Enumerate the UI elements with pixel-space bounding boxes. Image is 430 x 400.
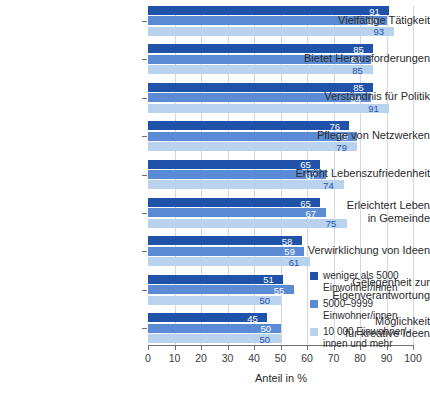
bar-value-label: 74	[323, 181, 334, 190]
legend-swatch	[310, 328, 318, 336]
x-axis-tick	[254, 345, 255, 350]
bar-value-label: 50	[260, 335, 271, 344]
legend-item[interactable]: 10 000 Einwohner/-innen und mehr	[310, 326, 410, 350]
legend-label-line: 5000–9999	[323, 298, 410, 310]
bar	[148, 142, 357, 151]
bar	[148, 247, 304, 256]
x-axis-tick	[228, 345, 229, 350]
x-axis-tick-label: 50	[275, 352, 287, 364]
category-label: Vielfältige Tätigkeit	[292, 14, 430, 27]
category-tick	[142, 21, 147, 22]
bar-value-label: 55	[274, 286, 285, 295]
bar-value-label: 85	[352, 66, 363, 75]
bar-value-label: 58	[282, 237, 293, 246]
bar	[148, 236, 302, 245]
bar-value-label: 51	[263, 275, 274, 284]
x-axis-tick-label: 10	[169, 352, 181, 364]
legend-label-line: innen und mehr	[323, 338, 410, 350]
bar-value-label: 50	[260, 296, 271, 305]
category-label-line: Verständnis für Politik	[292, 90, 430, 103]
bar	[148, 104, 389, 113]
category-label-line: in Gemeinde	[292, 212, 430, 225]
category-label: Verwirklichung von Ideen	[292, 244, 430, 257]
category-label: Verständnis für Politik	[292, 90, 430, 103]
bar-value-label: 79	[336, 143, 347, 152]
category-tick	[142, 290, 147, 291]
legend-swatch	[310, 300, 318, 308]
category-tick	[142, 328, 147, 329]
x-axis-tick	[307, 345, 308, 350]
x-axis-tick-label: 40	[248, 352, 260, 364]
category-label-line: Vielfältige Tätigkeit	[292, 14, 430, 27]
x-axis-tick-label: 0	[145, 352, 151, 364]
bar-value-label: 45	[247, 314, 258, 323]
x-axis-tick	[175, 345, 176, 350]
category-label-line: Erhöht Lebenszufriedenheit	[292, 167, 430, 180]
x-axis-tick	[148, 345, 149, 350]
legend-label-line: weniger als 5000	[323, 270, 410, 282]
category-tick	[142, 59, 147, 60]
category-tick	[142, 251, 147, 252]
bar-value-label: 61	[289, 258, 300, 267]
x-axis-tick	[413, 345, 414, 350]
x-axis-tick	[281, 345, 282, 350]
bar	[148, 285, 294, 294]
legend-label-line: Einwohner/innen	[323, 282, 410, 294]
bar	[148, 180, 344, 189]
legend-item[interactable]: weniger als 5000Einwohner/innen	[310, 270, 410, 294]
category-tick	[142, 136, 147, 137]
bar	[148, 27, 394, 36]
category-label: Bietet Herausforderungen	[292, 52, 430, 65]
category-label: Pflege von Netzwerken	[292, 129, 430, 142]
bar-value-label: 91	[368, 104, 379, 113]
x-axis-title: Anteil in %	[148, 372, 414, 384]
category-tick	[142, 98, 147, 99]
category-label-line: Erleichtert Leben	[292, 199, 430, 212]
bar-value-label: 50	[261, 324, 272, 333]
bar-chart: 0102030405060708090100 Anteil in % 91909…	[0, 0, 430, 400]
category-tick	[142, 175, 147, 176]
x-axis-tick	[201, 345, 202, 350]
bar	[148, 257, 310, 266]
legend-swatch	[310, 272, 318, 280]
bar-value-label: 93	[373, 27, 384, 36]
legend: weniger als 5000Einwohner/innen5000–9999…	[310, 270, 410, 354]
legend-label-line: Einwohner/innen	[323, 310, 410, 322]
x-axis-tick-label: 20	[195, 352, 207, 364]
category-label-line: Bietet Herausforderungen	[292, 52, 430, 65]
category-label: Erhöht Lebenszufriedenheit	[292, 167, 430, 180]
category-label-line: Pflege von Netzwerken	[292, 129, 430, 142]
category-label-line: Verwirklichung von Ideen	[292, 244, 430, 257]
category-tick	[142, 213, 147, 214]
legend-item[interactable]: 5000–9999Einwohner/innen	[310, 298, 410, 322]
legend-label-line: 10 000 Einwohner/-	[323, 326, 410, 338]
category-label: Erleichtert Lebenin Gemeinde	[292, 199, 430, 224]
bar	[148, 65, 373, 74]
x-axis-tick-label: 30	[222, 352, 234, 364]
